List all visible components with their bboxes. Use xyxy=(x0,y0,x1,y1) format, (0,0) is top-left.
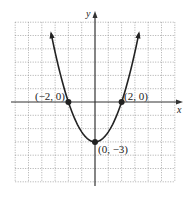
point-label-neg2-0: (−2, 0) xyxy=(35,90,65,103)
curve-arrow-icon xyxy=(135,31,140,38)
x-axis-label: x xyxy=(176,104,182,115)
point-marker xyxy=(65,99,71,105)
curve-arrow-icon xyxy=(50,31,55,38)
parabola-graph: x y (−2, 0) (2, 0) (0, −3) xyxy=(0,0,189,197)
point-label-2-0: (2, 0) xyxy=(124,90,148,103)
point-label-0-neg3: (0, −3) xyxy=(98,143,128,156)
y-axis-label: y xyxy=(85,8,91,19)
y-axis-arrow-icon xyxy=(93,11,98,18)
